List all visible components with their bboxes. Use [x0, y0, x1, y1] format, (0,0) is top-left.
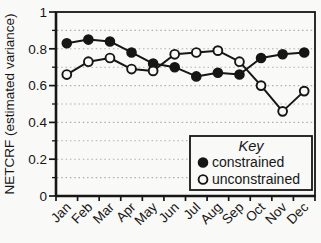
series-line-unconstrained [67, 51, 304, 112]
data-point-marker [170, 63, 179, 72]
x-tick-label: Jun [156, 200, 182, 226]
y-tick-label: 1 [39, 5, 47, 20]
data-point-marker [235, 57, 244, 66]
y-tick-label: 0 [39, 189, 47, 204]
x-tick-label: Dec [284, 199, 312, 227]
data-point-marker [192, 72, 201, 81]
data-point-marker [62, 70, 71, 79]
legend-label-unconstrained: unconstrained [212, 171, 300, 187]
data-point-marker [84, 35, 93, 44]
data-point-marker [127, 65, 136, 74]
data-point-marker [213, 46, 222, 55]
legend-open-circle-icon [199, 175, 208, 184]
legend-label-constrained: constrained [212, 154, 284, 170]
x-tick-label: Jan [48, 200, 74, 226]
plot-series [62, 35, 308, 116]
y-tick-label: 0.4 [28, 115, 47, 130]
data-point-marker [106, 54, 115, 63]
data-point-marker [62, 39, 71, 48]
data-point-marker [300, 48, 309, 57]
data-point-marker [192, 48, 201, 57]
data-point-marker [278, 50, 287, 59]
data-point-marker [149, 66, 158, 75]
data-point-marker [235, 70, 244, 79]
data-point-marker [84, 57, 93, 66]
y-tick-label: 0.6 [28, 78, 47, 93]
x-tick-label: Feb [68, 200, 95, 227]
y-tick-label: 0.8 [28, 42, 47, 57]
legend-filled-circle-icon [199, 158, 208, 167]
chart-canvas: 00.20.40.60.81 JanFebMarAprMayJunJulAugS… [0, 0, 321, 243]
series-constrained [62, 35, 308, 81]
data-point-marker [257, 54, 266, 63]
data-point-marker [278, 107, 287, 116]
line-chart-figure: 00.20.40.60.81 JanFebMarAprMayJunJulAugS… [0, 0, 321, 243]
y-tick-label: 0.2 [28, 152, 47, 167]
data-point-marker [106, 37, 115, 46]
y-tick-labels: 00.20.40.60.81 [28, 5, 47, 204]
data-point-marker [300, 87, 309, 96]
data-point-marker [257, 81, 266, 90]
y-axis-title: NETCRF (estimated variance) [2, 14, 17, 195]
x-tick-labels: JanFebMarAprMayJunJulAugSepOctNovDec [48, 199, 312, 228]
legend-title: Key [239, 138, 265, 154]
data-point-marker [213, 68, 222, 77]
legend: Key constrained unconstrained [190, 136, 312, 190]
data-point-marker [170, 50, 179, 59]
x-tick-label: Oct [243, 199, 269, 225]
series-line-constrained [67, 40, 304, 77]
data-point-marker [127, 48, 136, 57]
